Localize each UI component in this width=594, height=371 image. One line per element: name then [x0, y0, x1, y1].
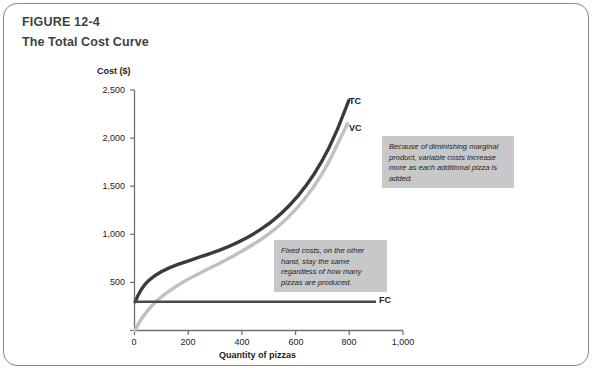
figure-header: FIGURE 12-4 The Total Cost Curve [22, 14, 149, 52]
y-tick-label: 1,500 [91, 181, 125, 191]
x-tick-label: 800 [332, 337, 366, 347]
x-axis-title: Quantity of pizzas [219, 350, 296, 360]
x-tick-label: 200 [171, 337, 205, 347]
annotation-fixed-cost: Fixed costs, on the other hand, stay the… [274, 240, 387, 292]
y-axis-title: Cost ($) [97, 66, 131, 76]
page-title: The Total Cost Curve [22, 33, 149, 52]
annotation-variable-cost: Because of diminishing marginal product,… [382, 136, 514, 188]
x-tick-label: 400 [225, 337, 259, 347]
y-tick-label: 2,500 [91, 85, 125, 95]
y-tick-label: 1,000 [91, 229, 125, 239]
y-tick-label: 2,000 [91, 133, 125, 143]
x-tick-label: 600 [279, 337, 313, 347]
tc-curve-label: TC [349, 96, 361, 106]
x-tick-label: 1,000 [386, 337, 420, 347]
y-tick-label: 500 [91, 277, 125, 287]
x-tick-label: 0 [117, 337, 151, 347]
fc-curve-label: FC [379, 295, 391, 305]
figure-number: FIGURE 12-4 [22, 14, 149, 31]
vc-curve-label: VC [349, 123, 362, 133]
